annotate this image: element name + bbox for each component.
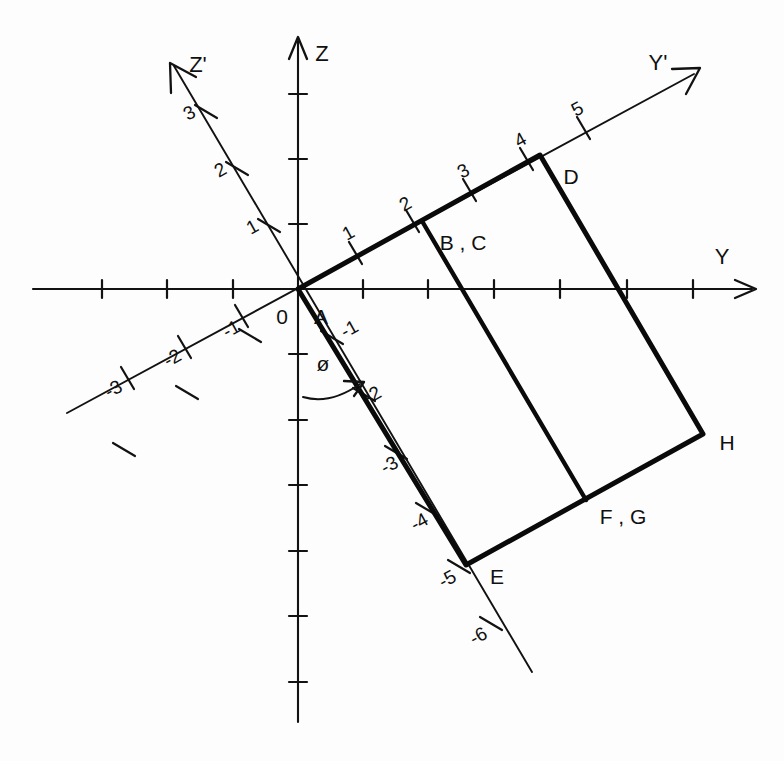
angle-phi-group: ø — [303, 352, 364, 400]
y-axis-group: Y — [33, 244, 756, 298]
rectangle-outline — [298, 155, 703, 565]
point-label-D: D — [563, 165, 578, 188]
z-prime-tick — [176, 386, 198, 399]
y-prime-axis-group: 1 2 3 4 5 -1 -2 -3 Y' — [67, 50, 700, 413]
y-axis-label: Y — [715, 244, 730, 269]
z-prime-negative-labels-group: -1 -2 -3 -4 -5 -6 — [321, 315, 502, 649]
z-prime-neg-label-5: -5 — [435, 565, 460, 592]
y-prime-tick-label-4: 4 — [511, 128, 531, 152]
point-label-BC: B , C — [440, 231, 487, 254]
origin-label: 0 — [276, 305, 288, 328]
z-prime-tick — [113, 443, 135, 456]
y-prime-axis-arrow-icon — [672, 68, 700, 94]
diagram-canvas: Y Z — [0, 0, 784, 761]
z-prime-neg-label-1: -1 — [337, 315, 362, 342]
angle-phi-arc — [303, 384, 360, 399]
y-prime-tick-label-neg3: -3 — [101, 375, 126, 402]
y-prime-tick-label-5: 5 — [568, 97, 587, 120]
coordinate-diagram-svg: Y Z — [0, 0, 784, 761]
y-prime-tick-label-2: 2 — [396, 192, 415, 215]
z-prime-neg-label-6: -6 — [466, 622, 491, 649]
rectangle-interior-divider — [422, 221, 586, 500]
point-label-H: H — [719, 431, 734, 454]
body-rectangle-group — [298, 155, 703, 565]
z-axis-label: Z — [315, 41, 328, 66]
z-prime-neg-label-4: -4 — [407, 508, 432, 535]
z-prime-tick — [195, 105, 217, 118]
y-prime-axis-label: Y' — [649, 50, 668, 75]
z-prime-axis-label: Z' — [189, 52, 207, 77]
y-prime-tick-label-neg2: -2 — [160, 344, 185, 371]
point-label-FG: F , G — [600, 505, 647, 528]
z-prime-tick — [239, 329, 261, 342]
z-prime-tick — [258, 219, 280, 232]
point-label-E: E — [490, 565, 504, 588]
angle-phi-label: ø — [317, 352, 330, 375]
point-label-A: A — [314, 305, 328, 328]
z-prime-axis-line — [174, 66, 532, 672]
z-axis-group: Z — [289, 37, 329, 722]
y-prime-tick-label-3: 3 — [454, 159, 473, 182]
y-prime-tick-label-1: 1 — [339, 221, 358, 244]
